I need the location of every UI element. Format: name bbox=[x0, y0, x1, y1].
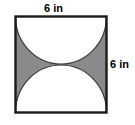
square-with-semicircles-svg bbox=[0, 0, 135, 125]
geometry-figure: 6 in 6 in bbox=[0, 0, 135, 125]
